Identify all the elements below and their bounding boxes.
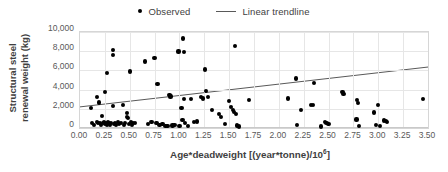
x-axis-tick-label: 2.00 — [270, 130, 287, 140]
gridline-vertical — [179, 32, 180, 128]
data-point — [233, 44, 237, 48]
data-point — [133, 121, 137, 125]
x-axis-tick-label: 0.50 — [120, 130, 137, 140]
gridline-vertical — [304, 32, 305, 128]
data-point — [295, 123, 299, 127]
data-point — [294, 76, 298, 80]
gridline-vertical — [254, 32, 255, 128]
data-point — [179, 106, 183, 110]
y-axis-title-line1: Structural steel — [7, 43, 18, 112]
data-point — [421, 97, 425, 101]
gridline-vertical — [378, 32, 379, 128]
gridline-vertical — [279, 32, 280, 128]
y-axis-title-wrap: Structural steel renewal weight (kg) — [2, 28, 36, 128]
data-point — [203, 67, 207, 71]
gridline-vertical — [204, 32, 205, 128]
y-axis-title: Structural steel renewal weight (kg) — [7, 26, 31, 130]
data-point — [143, 59, 147, 63]
x-axis-tick-label: 3.00 — [369, 130, 386, 140]
data-point — [111, 53, 115, 57]
data-point — [165, 124, 169, 128]
data-point — [372, 110, 376, 114]
x-axis-tick-label: 0.00 — [71, 130, 88, 140]
legend-label-trendline: Linear trendline — [242, 6, 309, 17]
x-axis-tick-label: 3.25 — [394, 130, 411, 140]
legend-label-observed: Observed — [148, 6, 190, 17]
data-point — [286, 96, 290, 100]
data-point — [111, 48, 115, 52]
data-point — [201, 96, 205, 100]
plot-area — [79, 31, 429, 129]
data-point — [354, 117, 358, 121]
data-point — [97, 100, 101, 104]
x-axis-tick-label: 1.50 — [220, 130, 237, 140]
data-point — [195, 119, 199, 123]
data-point — [341, 92, 345, 96]
x-axis-title-prefix: Age*deadweight [(year*tonne)/10 — [170, 149, 323, 160]
data-point — [172, 123, 176, 127]
x-axis-tick-label: 2.50 — [319, 130, 336, 140]
gridline-vertical — [130, 32, 131, 128]
data-point — [177, 124, 181, 128]
gridline-vertical — [403, 32, 404, 128]
legend-entry-observed: Observed — [138, 6, 190, 17]
gridline-vertical — [105, 32, 106, 128]
x-axis-tick-label: 3.50 — [419, 130, 436, 140]
gridline-vertical — [229, 32, 230, 128]
scatter-chart: Observed Linear trendline Structural ste… — [0, 0, 448, 172]
x-axis-title-suffix: ] — [327, 149, 330, 160]
gridline-vertical — [353, 32, 354, 128]
legend-entry-trendline: Linear trendline — [216, 6, 309, 17]
data-point — [149, 120, 153, 124]
data-point — [299, 108, 303, 112]
data-point — [121, 103, 125, 107]
data-point — [111, 104, 115, 108]
y-axis-tick-labels: 02,0004,0006,0008,00010,000 — [36, 28, 77, 128]
x-axis-title: Age*deadweight [(year*tonne)/106] — [60, 148, 440, 160]
y-axis-tick-label: 2,000 — [53, 100, 74, 110]
data-point — [319, 124, 323, 128]
data-point — [168, 94, 172, 98]
data-point — [326, 122, 330, 126]
chart-legend: Observed Linear trendline — [0, 2, 448, 20]
y-axis-tick-label: 6,000 — [53, 61, 74, 71]
data-point — [103, 90, 107, 94]
y-axis-tick-label: 8,000 — [53, 42, 74, 52]
line-marker-icon — [216, 11, 236, 12]
x-axis-tick-label: 1.00 — [170, 130, 187, 140]
y-axis-tick-label: 4,000 — [53, 81, 74, 91]
data-point — [227, 99, 231, 103]
x-axis-tick-label: 2.75 — [344, 130, 361, 140]
y-axis-title-line2: renewal weight (kg) — [19, 34, 30, 122]
data-point — [311, 103, 315, 107]
data-point — [128, 69, 132, 73]
x-axis-tick-label: 1.25 — [195, 130, 212, 140]
x-axis-baseline — [80, 127, 428, 128]
data-point — [176, 49, 180, 53]
dot-marker-icon — [138, 9, 142, 13]
x-axis-tick-labels: 0.000.250.500.751.001.251.501.752.002.25… — [79, 130, 427, 144]
data-point — [155, 82, 159, 86]
y-axis-tick-label: 0 — [69, 119, 74, 129]
plot-inner — [80, 32, 428, 128]
x-axis-tick-label: 0.75 — [145, 130, 162, 140]
x-axis-tick-label: 0.25 — [96, 130, 113, 140]
y-axis-tick-label: 10,000 — [48, 23, 74, 33]
gridline-vertical — [329, 32, 330, 128]
x-axis-tick-label: 2.25 — [294, 130, 311, 140]
gridline-vertical — [155, 32, 156, 128]
data-point — [237, 124, 241, 128]
x-axis-tick-label: 1.75 — [245, 130, 262, 140]
